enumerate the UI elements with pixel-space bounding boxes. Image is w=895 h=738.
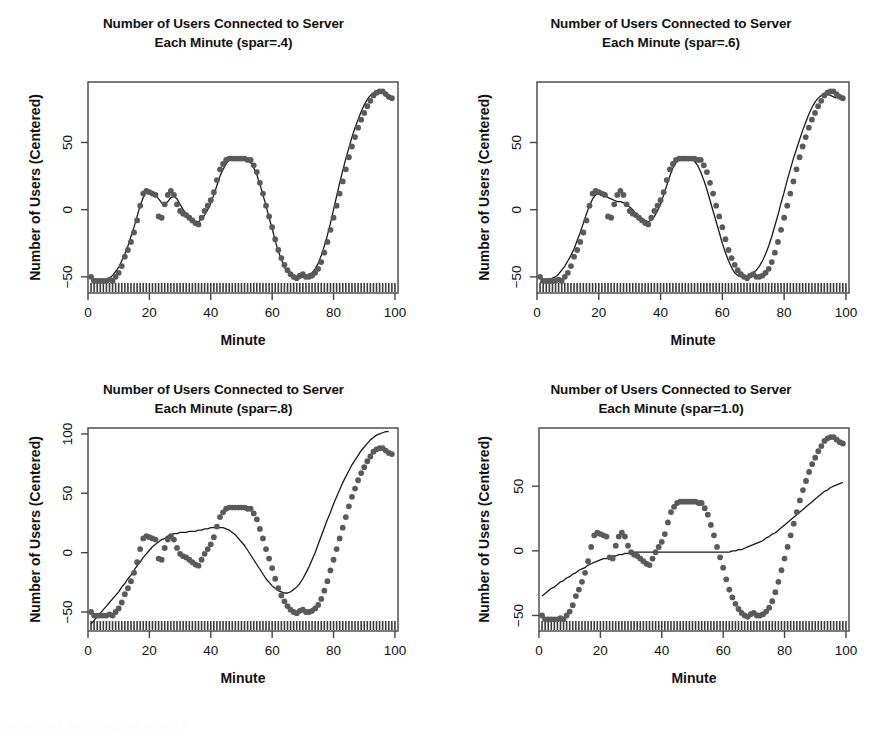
y-axis: −50050 xyxy=(509,135,537,288)
x-axis-title: Minute xyxy=(671,670,716,686)
y-axis-title: Number of Users (Centered) xyxy=(476,94,492,281)
y-tick-label: 0 xyxy=(511,547,526,555)
x-tick-label: 20 xyxy=(142,305,157,320)
x-tick-label: 100 xyxy=(835,305,858,320)
x-axis: 020406080100 xyxy=(535,631,857,658)
page-bottom-text: the different smoothing parameters xyxy=(0,719,895,738)
panel-title-spar-10: Number of Users Connected to Server Each… xyxy=(447,380,895,418)
y-tick-label: 50 xyxy=(60,486,75,501)
x-tick-label: 60 xyxy=(716,643,731,658)
x-axis: 020406080100 xyxy=(533,293,857,320)
y-tick-label: 0 xyxy=(60,206,75,214)
x-tick-label: 100 xyxy=(384,643,407,658)
plot-box xyxy=(88,428,398,631)
y-tick-label: 50 xyxy=(509,135,524,150)
x-axis-title: Minute xyxy=(220,670,265,686)
plot-box xyxy=(539,428,849,631)
x-tick-label: 0 xyxy=(533,305,541,320)
chart-svg: 020406080100−50050MinuteNumber of Users … xyxy=(447,366,895,738)
x-axis: 020406080100 xyxy=(84,293,406,320)
x-tick-label: 20 xyxy=(591,305,606,320)
x-axis-title: Minute xyxy=(670,332,715,348)
x-tick-label: 40 xyxy=(654,643,669,658)
plot-area-spar-08: 020406080100−50050100MinuteNumber of Use… xyxy=(0,366,447,738)
rug-ticks xyxy=(91,283,395,292)
y-axis-title: Number of Users (Centered) xyxy=(27,94,43,281)
panel-title-line2: Each Minute (spar=.6) xyxy=(447,33,895,52)
x-tick-label: 40 xyxy=(203,643,218,658)
panel-spar-08: Number of Users Connected to Server Each… xyxy=(0,366,447,738)
y-tick-label: −50 xyxy=(511,604,526,627)
x-tick-label: 80 xyxy=(777,643,792,658)
x-tick-label: 0 xyxy=(84,305,92,320)
x-tick-label: 60 xyxy=(265,305,280,320)
panel-title-line2: Each Minute (spar=.8) xyxy=(0,399,447,418)
x-axis: 020406080100 xyxy=(84,631,406,658)
x-tick-label: 20 xyxy=(142,643,157,658)
y-tick-label: 50 xyxy=(60,135,75,150)
y-axis: −50050 xyxy=(511,479,539,627)
panel-title-line1: Number of Users Connected to Server xyxy=(0,380,447,399)
panel-title-line1: Number of Users Connected to Server xyxy=(447,14,895,33)
figure-grid: Number of Users Connected to Server Each… xyxy=(0,0,895,738)
y-tick-label: −50 xyxy=(509,265,524,288)
y-tick-label: −50 xyxy=(60,265,75,288)
chart-svg: 020406080100−50050100MinuteNumber of Use… xyxy=(0,366,447,738)
x-axis-title: Minute xyxy=(220,332,265,348)
x-tick-label: 80 xyxy=(326,643,341,658)
rug-ticks xyxy=(91,621,395,630)
x-tick-label: 60 xyxy=(265,643,280,658)
y-tick-label: 100 xyxy=(60,423,75,446)
plot-box xyxy=(88,82,398,293)
chart-svg: 020406080100−50050MinuteNumber of Users … xyxy=(0,0,447,366)
panel-title-spar-04: Number of Users Connected to Server Each… xyxy=(0,14,447,52)
panel-title-line2: Each Minute (spar=.4) xyxy=(0,33,447,52)
y-tick-label: −50 xyxy=(60,601,75,624)
x-tick-label: 0 xyxy=(84,643,92,658)
y-tick-label: 0 xyxy=(509,206,524,214)
panel-spar-04: Number of Users Connected to Server Each… xyxy=(0,0,447,366)
y-axis-title: Number of Users (Centered) xyxy=(27,436,43,623)
y-axis: −50050 xyxy=(60,135,88,288)
x-tick-label: 40 xyxy=(203,305,218,320)
x-tick-label: 20 xyxy=(593,643,608,658)
smoothing-spline xyxy=(91,91,389,280)
smoothing-spline xyxy=(540,94,837,282)
plot-box xyxy=(537,82,849,293)
x-tick-label: 40 xyxy=(653,305,668,320)
x-tick-label: 0 xyxy=(535,643,543,658)
x-tick-label: 80 xyxy=(777,305,792,320)
chart-svg: 020406080100−50050MinuteNumber of Users … xyxy=(447,0,895,366)
panel-title-line1: Number of Users Connected to Server xyxy=(0,14,447,33)
panel-title-line1: Number of Users Connected to Server xyxy=(447,380,895,399)
x-tick-label: 100 xyxy=(835,643,858,658)
y-tick-label: 50 xyxy=(511,479,526,494)
plot-area-spar-10: 020406080100−50050MinuteNumber of Users … xyxy=(447,366,895,738)
x-tick-label: 80 xyxy=(326,305,341,320)
y-axis: −50050100 xyxy=(60,423,88,624)
rug-ticks xyxy=(542,621,846,630)
plot-area-spar-04: 020406080100−50050MinuteNumber of Users … xyxy=(0,0,447,366)
rug-ticks xyxy=(540,283,846,292)
y-tick-label: 0 xyxy=(60,549,75,557)
panel-spar-10: Number of Users Connected to Server Each… xyxy=(447,366,895,738)
y-axis-title: Number of Users (Centered) xyxy=(476,436,492,623)
panel-title-line2: Each Minute (spar=1.0) xyxy=(447,399,895,418)
panel-title-spar-08: Number of Users Connected to Server Each… xyxy=(0,380,447,418)
x-tick-label: 60 xyxy=(715,305,730,320)
panel-spar-06: Number of Users Connected to Server Each… xyxy=(447,0,895,366)
plot-area-spar-06: 020406080100−50050MinuteNumber of Users … xyxy=(447,0,895,366)
x-tick-label: 100 xyxy=(384,305,407,320)
panel-title-spar-06: Number of Users Connected to Server Each… xyxy=(447,14,895,52)
